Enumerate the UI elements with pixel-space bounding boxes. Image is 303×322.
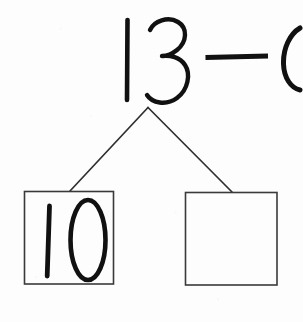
bond-part-left-value-ink — [47, 200, 105, 280]
digit-six-partial-stroke — [283, 28, 300, 90]
digit-one-stroke — [127, 20, 128, 100]
worksheet-page: 13 — 6 13 10 — [0, 0, 303, 322]
number-bond-drawing — [0, 0, 303, 322]
bond-branch-left — [70, 108, 148, 192]
bond-part-box-left[interactable] — [25, 192, 114, 285]
bond-part-box-right[interactable] — [186, 193, 278, 286]
answer-digit-one-stroke — [47, 206, 49, 276]
answer-digit-zero-stroke — [71, 200, 106, 280]
digit-three-stroke — [147, 19, 188, 102]
equation-minuend-13 — [127, 19, 188, 102]
bond-branch-right — [148, 108, 232, 193]
equation-subtrahend-clipped — [283, 28, 300, 90]
minus-sign — [206, 56, 269, 58]
bond-part-box-right-outline — [186, 193, 278, 286]
